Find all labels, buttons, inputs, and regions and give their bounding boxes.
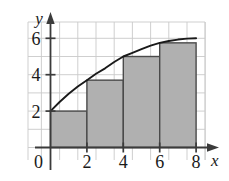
- riemann-sum-figure: 02468 246 x y: [0, 0, 229, 181]
- x-axis-tick-label: 4: [119, 152, 128, 172]
- riemann-rectangles: [51, 43, 197, 148]
- riemann-rectangle: [123, 57, 159, 148]
- y-axis-tick-label: 6: [32, 29, 41, 49]
- chart-canvas: 02468 246 x y: [0, 0, 229, 181]
- y-axis-tick-label: 2: [32, 102, 41, 122]
- riemann-rectangle: [160, 43, 196, 148]
- y-axis-tick-label: 4: [32, 65, 41, 85]
- x-axis-label: x: [210, 151, 219, 170]
- riemann-rectangle: [51, 111, 87, 147]
- x-axis-tick-label: 0: [34, 152, 43, 172]
- y-axis-tick-labels: 246: [32, 29, 41, 122]
- riemann-rectangle: [87, 80, 123, 147]
- x-axis-tick-label: 2: [82, 152, 91, 172]
- x-axis-tick-label: 6: [155, 152, 164, 172]
- x-axis-tick-label: 8: [192, 152, 201, 172]
- y-axis-arrowhead: [46, 12, 54, 24]
- y-axis-label: y: [33, 9, 43, 28]
- x-axis-tick-labels: 02468: [34, 152, 201, 172]
